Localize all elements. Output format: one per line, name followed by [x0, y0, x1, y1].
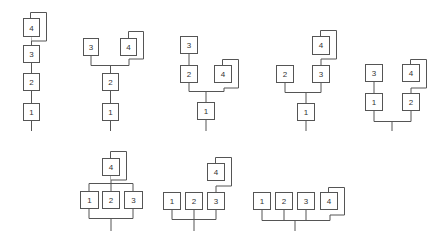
node-1: 1 [81, 192, 99, 209]
svg-text:3: 3 [214, 197, 219, 206]
node-2: 2 [103, 74, 119, 91]
svg-text:3: 3 [29, 50, 34, 59]
svg-text:2: 2 [283, 70, 288, 79]
diagram-5: 3 4 1 2 [366, 60, 427, 132]
svg-text:3: 3 [89, 43, 94, 52]
node-2: 2 [24, 74, 40, 91]
node-1: 1 [164, 193, 181, 210]
svg-text:4: 4 [319, 41, 324, 50]
diagram-1: 4 3 2 1 [24, 13, 47, 132]
node-2: 2 [403, 94, 420, 111]
svg-text:2: 2 [192, 197, 197, 206]
node-1: 1 [254, 193, 271, 210]
node-4: 4 [208, 164, 225, 181]
svg-text:1: 1 [170, 197, 175, 206]
svg-text:4: 4 [327, 197, 332, 206]
node-4: 4 [24, 19, 40, 37]
diagram-8: 1 2 3 4 [254, 188, 345, 232]
node-2: 2 [186, 193, 203, 210]
node-3: 3 [84, 39, 99, 56]
node-3: 3 [24, 46, 40, 63]
svg-text:2: 2 [409, 98, 414, 107]
svg-text:1: 1 [204, 107, 209, 116]
node-3: 3 [181, 37, 198, 54]
svg-text:1: 1 [372, 98, 377, 107]
svg-text:3: 3 [304, 197, 309, 206]
node-2: 2 [276, 193, 293, 210]
node-4: 4 [215, 66, 232, 83]
svg-text:1: 1 [87, 196, 92, 205]
node-4: 4 [313, 37, 330, 55]
node-4: 4 [121, 39, 137, 56]
svg-text:1: 1 [260, 197, 265, 206]
diagram-2: 3 4 2 1 [84, 32, 144, 132]
svg-text:1: 1 [29, 108, 34, 117]
svg-text:1: 1 [108, 108, 113, 117]
node-1: 1 [198, 103, 215, 120]
svg-text:2: 2 [109, 196, 114, 205]
node-3: 3 [208, 193, 225, 210]
svg-text:2: 2 [108, 78, 113, 87]
diagram-3: 3 2 4 1 [181, 37, 239, 132]
node-2: 2 [181, 66, 198, 83]
node-4: 4 [103, 159, 120, 176]
svg-text:4: 4 [221, 70, 226, 79]
diagram-6: 4 1 2 3 [81, 152, 143, 232]
node-1: 1 [24, 104, 40, 121]
node-3: 3 [366, 65, 383, 82]
diagram-7: 4 1 2 3 [164, 158, 232, 232]
svg-text:3: 3 [131, 196, 136, 205]
node-3: 3 [313, 66, 330, 83]
svg-text:3: 3 [319, 70, 324, 79]
svg-text:4: 4 [109, 163, 114, 172]
svg-text:4: 4 [214, 168, 219, 177]
svg-text:3: 3 [372, 69, 377, 78]
connector-lines [262, 210, 330, 231]
svg-text:4: 4 [29, 24, 34, 33]
svg-text:4: 4 [409, 69, 414, 78]
svg-text:2: 2 [187, 70, 192, 79]
diagram-4: 4 2 3 1 [277, 31, 337, 132]
svg-text:3: 3 [187, 41, 192, 50]
svg-text:2: 2 [282, 197, 287, 206]
node-3: 3 [298, 193, 315, 210]
svg-text:2: 2 [29, 78, 34, 87]
node-2: 2 [103, 192, 120, 209]
node-1: 1 [366, 94, 383, 111]
node-1: 1 [103, 104, 119, 121]
node-3: 3 [125, 192, 143, 209]
svg-text:4: 4 [126, 43, 131, 52]
node-4: 4 [321, 193, 338, 210]
node-2: 2 [277, 66, 294, 83]
tree-diagrams-canvas: 4 3 2 1 3 4 2 1 [0, 0, 446, 240]
node-4: 4 [403, 65, 420, 82]
node-1: 1 [298, 104, 315, 121]
svg-text:1: 1 [304, 108, 309, 117]
